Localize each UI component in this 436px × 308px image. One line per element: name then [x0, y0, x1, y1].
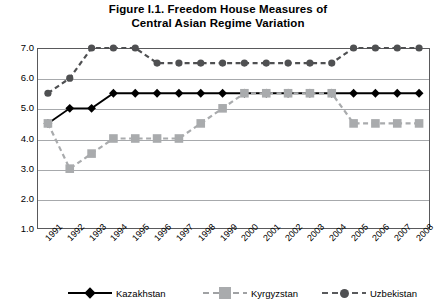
- legend-item-kyrgyzstan[interactable]: Kyrgyzstan: [203, 285, 298, 301]
- legend-marker-circle-icon: [340, 289, 349, 298]
- chart-legend: KazakhstanKyrgyzstanUzbekistan: [0, 285, 436, 303]
- legend-item-kazakhstan[interactable]: Kazakhstan: [68, 285, 166, 301]
- legend-item-uzbekistan[interactable]: Uzbekistan: [322, 285, 417, 301]
- gridline: [38, 140, 429, 141]
- y-axis-tick-label: 3.0: [4, 164, 34, 174]
- y-axis-tick-label: 4.0: [4, 134, 34, 144]
- y-axis-tick-label: 6.0: [4, 73, 34, 83]
- legend-swatch-kazakhstan-icon: [68, 287, 112, 299]
- y-axis-tick-label: 5.0: [4, 103, 34, 113]
- gridline: [38, 200, 429, 201]
- y-axis-tick-label: 7.0: [4, 43, 34, 53]
- chart-title-line-2: Central Asian Regime Variation: [0, 16, 436, 30]
- gridline: [38, 109, 429, 110]
- plot-area: [37, 48, 430, 229]
- x-axis: 1991199219931994199519961997199819992000…: [0, 232, 436, 272]
- legend-swatch-kyrgyzstan-icon: [203, 287, 247, 299]
- legend-label: Kyrgyzstan: [251, 288, 298, 299]
- legend-marker-square-icon: [219, 287, 231, 299]
- figure-container: Figure I.1. Freedom House Measures of Ce…: [0, 0, 436, 308]
- legend-label: Kazakhstan: [116, 288, 166, 299]
- gridline: [38, 79, 429, 80]
- legend-marker-diamond-icon: [84, 287, 95, 298]
- legend-label: Uzbekistan: [370, 288, 417, 299]
- y-axis-tick-label: 2.0: [4, 194, 34, 204]
- gridline: [38, 170, 429, 171]
- chart-title: Figure I.1. Freedom House Measures of Ce…: [0, 2, 436, 30]
- chart-title-line-1: Figure I.1. Freedom House Measures of: [109, 3, 327, 15]
- legend-swatch-uzbekistan-icon: [322, 287, 366, 299]
